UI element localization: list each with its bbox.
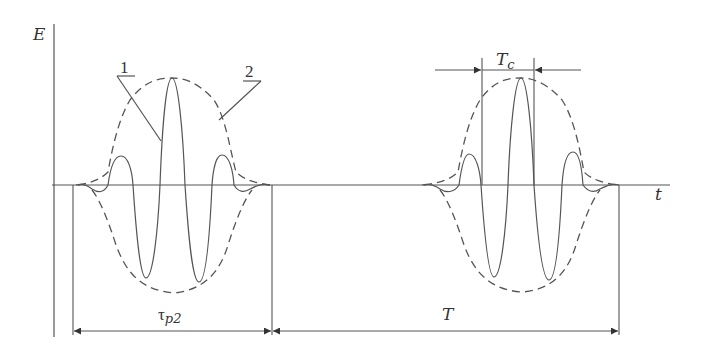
envelope-upper-right bbox=[424, 78, 618, 185]
callout-2: 2 bbox=[219, 62, 261, 120]
envelope-lower-left bbox=[92, 190, 252, 293]
tau-label: τp2 bbox=[158, 305, 181, 326]
period-label: T bbox=[442, 304, 455, 324]
svg-text:1: 1 bbox=[120, 58, 129, 77]
x-axis-label: t bbox=[655, 184, 662, 204]
envelope-upper-left bbox=[78, 78, 270, 185]
tc-label: Tc bbox=[496, 49, 515, 72]
oscillation-right bbox=[422, 78, 619, 280]
y-axis-label: E bbox=[32, 24, 46, 44]
svg-text:2: 2 bbox=[245, 62, 254, 81]
pulse-diagram: E t 1 2 τp2 T Tc bbox=[0, 0, 707, 353]
envelope-lower-right bbox=[440, 190, 600, 292]
callout-1: 1 bbox=[117, 58, 161, 141]
oscillation-left bbox=[76, 78, 270, 282]
